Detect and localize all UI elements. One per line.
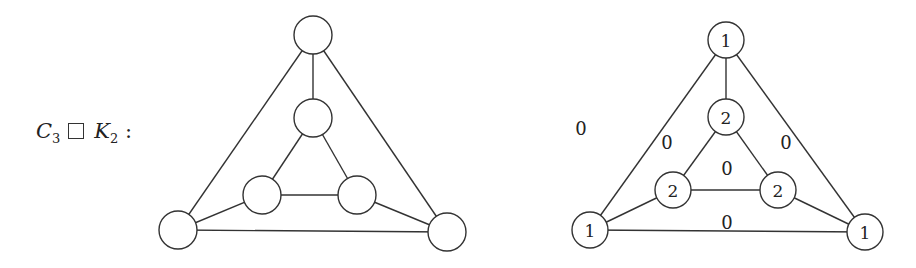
right-edge-top-outer-right	[726, 40, 865, 232]
right-node-label-inner-left: 2	[668, 181, 679, 201]
left-edge-top-outer-right	[313, 35, 447, 232]
right-graph: 00000122211	[572, 22, 883, 250]
left-node-outer-left	[159, 211, 197, 249]
right-edge-top-outer-left	[590, 40, 726, 230]
right-node-label-inner-top: 2	[721, 108, 732, 128]
right-face-label-right-face: 0	[780, 132, 791, 153]
left-node-inner-top	[294, 99, 332, 137]
right-node-label-outer-left: 1	[585, 221, 596, 241]
right-face-label-inner-face: 0	[721, 158, 732, 179]
left-node-inner-right	[338, 176, 376, 214]
right-face-label-left-face: 0	[661, 132, 672, 153]
right-node-label-top: 1	[721, 31, 732, 51]
left-node-outer-right	[428, 213, 466, 251]
left-node-inner-left	[243, 176, 281, 214]
right-node-label-outer-right: 1	[860, 223, 871, 243]
left-graph	[159, 16, 466, 251]
right-face-label-bottom-face: 0	[721, 212, 732, 233]
diagram-canvas: 00000122211	[0, 0, 916, 268]
left-edge-outer-left-outer-right	[178, 230, 447, 232]
left-node-top	[294, 16, 332, 54]
right-face-label-outer-face: 0	[575, 118, 586, 139]
right-node-label-inner-right: 2	[773, 181, 784, 201]
